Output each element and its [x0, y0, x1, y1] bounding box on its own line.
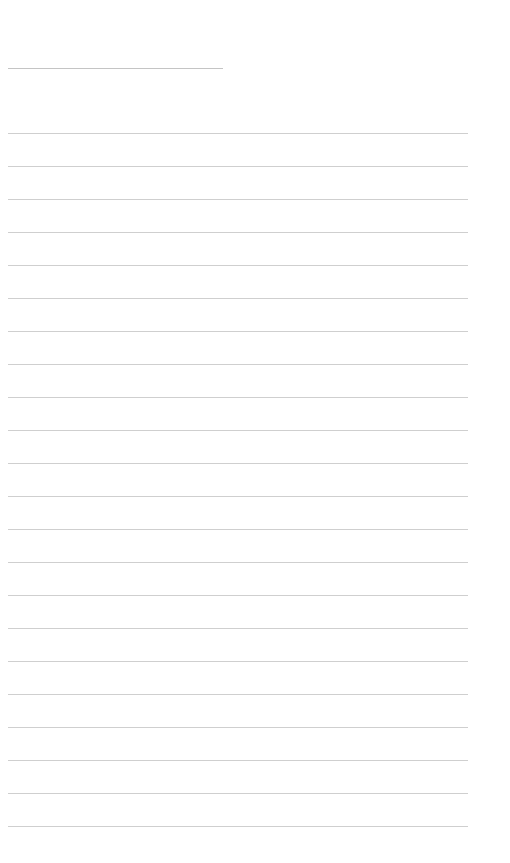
- ruled-line: [8, 529, 468, 530]
- line-text-field[interactable]: [10, 574, 466, 594]
- ruled-line: [8, 364, 468, 365]
- ruled-line: [8, 232, 468, 233]
- line-text-field[interactable]: [10, 112, 466, 132]
- line-text-field[interactable]: [10, 310, 466, 330]
- line-text-field[interactable]: [10, 772, 466, 792]
- line-text-field[interactable]: [10, 244, 466, 264]
- line-text-field[interactable]: [10, 376, 466, 396]
- ruled-line: [8, 694, 468, 695]
- line-text-field[interactable]: [10, 739, 466, 759]
- line-text-field[interactable]: [10, 706, 466, 726]
- line-text-field[interactable]: [10, 607, 466, 627]
- ruled-line: [8, 661, 468, 662]
- line-text-field[interactable]: [10, 211, 466, 231]
- line-text-field[interactable]: [10, 640, 466, 660]
- lined-page: [0, 0, 510, 863]
- ruled-line: [8, 760, 468, 761]
- ruled-line: [8, 727, 468, 728]
- ruled-line: [8, 595, 468, 596]
- ruled-line: [8, 397, 468, 398]
- ruled-line: [8, 133, 468, 134]
- line-text-field[interactable]: [10, 541, 466, 561]
- ruled-line: [8, 430, 468, 431]
- ruled-line: [8, 463, 468, 464]
- line-text-field[interactable]: [10, 277, 466, 297]
- ruled-line: [8, 826, 468, 827]
- ruled-line: [8, 265, 468, 266]
- ruled-line: [8, 166, 468, 167]
- line-text-field[interactable]: [10, 673, 466, 693]
- ruled-line: [8, 331, 468, 332]
- ruled-line: [8, 199, 468, 200]
- title-underline: [8, 68, 223, 69]
- line-text-field[interactable]: [10, 409, 466, 429]
- ruled-line: [8, 628, 468, 629]
- title-field[interactable]: [10, 48, 220, 66]
- line-text-field[interactable]: [10, 178, 466, 198]
- line-text-field[interactable]: [10, 475, 466, 495]
- ruled-line: [8, 298, 468, 299]
- line-text-field[interactable]: [10, 343, 466, 363]
- line-text-field[interactable]: [10, 508, 466, 528]
- line-text-field[interactable]: [10, 805, 466, 825]
- ruled-line: [8, 562, 468, 563]
- line-text-field[interactable]: [10, 442, 466, 462]
- ruled-line: [8, 793, 468, 794]
- ruled-line: [8, 496, 468, 497]
- line-text-field[interactable]: [10, 145, 466, 165]
